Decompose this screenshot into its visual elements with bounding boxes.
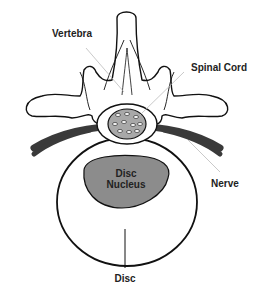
disc-nucleus-label-line1: Disc: [100, 168, 152, 179]
disc-nucleus-label: Disc Nucleus: [100, 168, 152, 190]
nerve-label: Nerve: [211, 178, 239, 189]
spinal-cord-label: Spinal Cord: [191, 62, 247, 73]
diagram-graphic: [0, 0, 254, 294]
vertebra-label: Vertebra: [52, 28, 92, 39]
spine-diagram: Vertebra Spinal Cord Nerve Disc Nucleus …: [0, 0, 254, 294]
disc-label: Disc: [105, 273, 145, 284]
disc-nucleus-label-line2: Nucleus: [100, 179, 152, 190]
